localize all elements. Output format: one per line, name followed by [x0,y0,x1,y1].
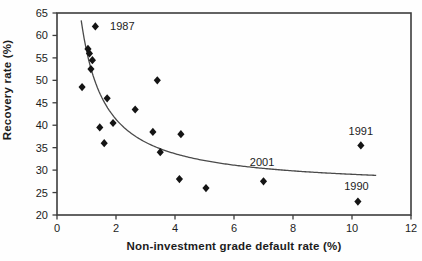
x-tick-label: 10 [346,222,358,234]
data-point [260,177,267,185]
data-point [202,184,209,192]
data-point [104,94,111,102]
recovery-vs-default-chart: 0246810122025303540455055606519872001199… [0,0,422,261]
y-tick-label: 25 [36,187,48,199]
scatter-plot-svg: 0246810122025303540455055606519872001199… [0,0,422,261]
data-point [101,139,108,147]
x-tick-label: 2 [113,222,119,234]
y-axis-title: Recovery rate (%) [1,0,17,195]
data-point [96,123,103,131]
y-tick-label: 60 [36,29,48,41]
x-tick-label: 6 [231,222,237,234]
trend-curve [81,20,376,175]
data-point [154,76,161,84]
y-tick-label: 65 [36,7,48,19]
data-point [357,141,364,149]
data-point [149,128,156,136]
y-tick-label: 20 [36,209,48,221]
y-tick-label: 50 [36,74,48,86]
y-tick-label: 35 [36,142,48,154]
point-annotation: 1990 [344,180,368,192]
data-point [87,65,94,73]
point-annotation: 1991 [349,125,373,137]
point-annotation: 1987 [110,20,134,32]
x-tick-label: 12 [405,222,417,234]
data-point [177,130,184,138]
x-axis-title: Non-investment grade default rate (%) [57,240,411,252]
point-annotation: 2001 [250,156,274,168]
x-tick-label: 4 [172,222,178,234]
data-point [354,197,361,205]
x-tick-label: 0 [54,222,60,234]
data-point [92,22,99,30]
y-tick-label: 30 [36,164,48,176]
y-tick-label: 55 [36,52,48,64]
data-point [109,119,116,127]
y-tick-label: 45 [36,97,48,109]
data-point [176,175,183,183]
data-point [132,105,139,113]
x-tick-label: 8 [290,222,296,234]
data-point [79,83,86,91]
y-tick-label: 40 [36,119,48,131]
